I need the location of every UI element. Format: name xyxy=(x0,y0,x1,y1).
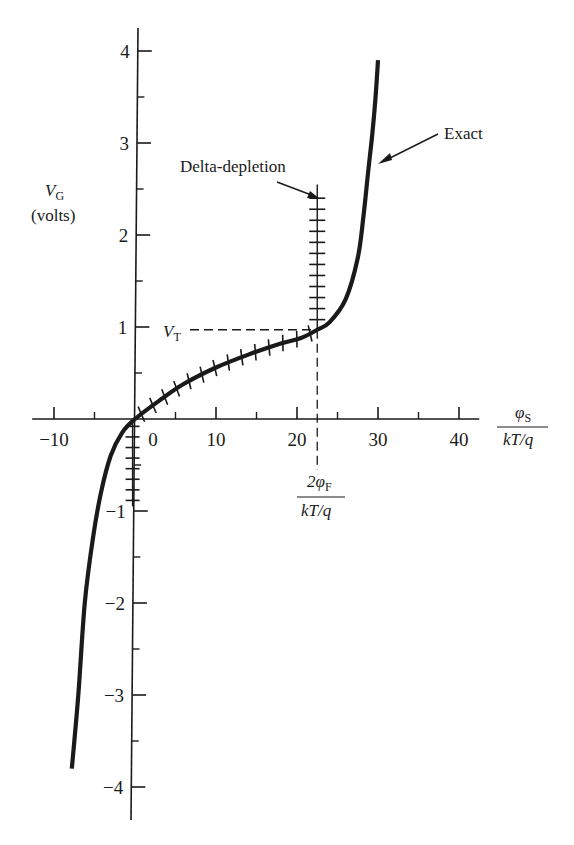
x-tick-label: −10 xyxy=(39,429,69,450)
x-tick-label: 20 xyxy=(288,429,307,450)
y-axis-label: VG xyxy=(45,181,64,203)
delta-depletion-label: Delta-depletion xyxy=(180,157,286,176)
delta-depletion-series xyxy=(126,184,326,506)
x-axis-label-denominator: kT/q xyxy=(503,430,534,449)
y-tick-label: −4 xyxy=(103,777,124,798)
y-tick-label: 3 xyxy=(119,133,129,154)
x-axis-label-numerator: φS xyxy=(515,403,531,425)
y-tick-label: 2 xyxy=(119,225,129,246)
chart-canvas: −101020304004321−1−2−3−4 VG (volts) φS k… xyxy=(0,0,574,845)
y-axis-unit: (volts) xyxy=(31,206,75,225)
vt-label: VT xyxy=(163,322,181,344)
delta-depletion-arrowhead xyxy=(307,191,320,199)
exact-label: Exact xyxy=(444,124,483,143)
exact-arrow xyxy=(384,134,438,161)
y-tick-label: −2 xyxy=(105,593,125,614)
y-tick-label: 4 xyxy=(120,41,130,62)
y-tick-label: −3 xyxy=(104,685,124,706)
y-tick-label: −1 xyxy=(106,501,126,522)
exact-arrowhead xyxy=(378,153,392,164)
x-tick-label: 10 xyxy=(207,429,226,450)
phif-label-denominator: kT/q xyxy=(301,501,332,520)
x-tick-label: 30 xyxy=(369,429,388,450)
x-tick-label: 40 xyxy=(450,429,469,450)
y-tick-label: 1 xyxy=(118,317,128,338)
x-tick-label: 0 xyxy=(148,429,158,450)
delta-depletion-arrow xyxy=(277,182,314,196)
phif-label-numerator: 2φF xyxy=(307,472,332,494)
